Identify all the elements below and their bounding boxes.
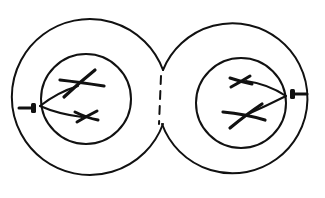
right-spindle-pole-body [290, 89, 295, 99]
left-cell-membrane [12, 19, 163, 175]
left-spindle-pole-body [31, 103, 36, 113]
left-cell [12, 19, 163, 175]
right-cell [162, 23, 307, 173]
cell-division-diagram [0, 0, 325, 198]
left-chromosome-large [60, 70, 104, 97]
division-furrow [159, 76, 161, 124]
right-chromosome-large [223, 104, 265, 128]
left-nucleus [41, 54, 131, 144]
